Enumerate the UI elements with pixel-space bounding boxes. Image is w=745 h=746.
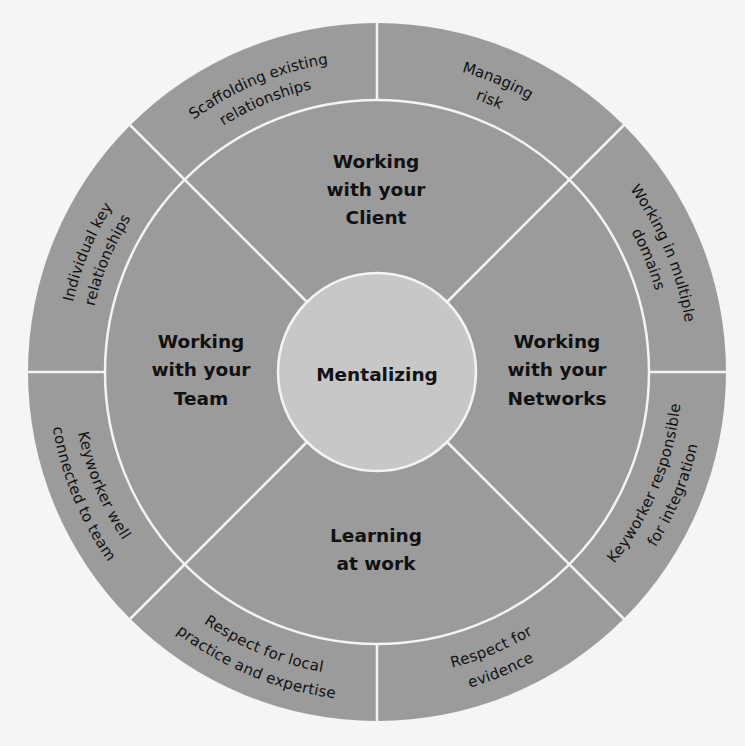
sector-learning-line-1: Learning	[330, 525, 422, 546]
mentalizing-wheel-diagram: Mentalizing Working with your Client Wor…	[0, 0, 745, 746]
sector-client-line-2: with your	[327, 179, 427, 200]
sector-client-line-1: Working	[333, 151, 420, 172]
sector-team-line-2: with your	[152, 359, 252, 380]
sector-networks-line-2: with your	[508, 359, 608, 380]
center-label: Mentalizing	[316, 364, 438, 385]
sector-learning-line-2: at work	[337, 553, 417, 574]
sector-team-line-3: Team	[174, 388, 228, 409]
sector-client-line-3: Client	[346, 207, 407, 228]
sector-networks: Working with your Networks	[507, 331, 607, 409]
sector-networks-line-1: Working	[514, 331, 601, 352]
sector-team-line-1: Working	[158, 331, 245, 352]
sector-networks-line-3: Networks	[507, 388, 606, 409]
